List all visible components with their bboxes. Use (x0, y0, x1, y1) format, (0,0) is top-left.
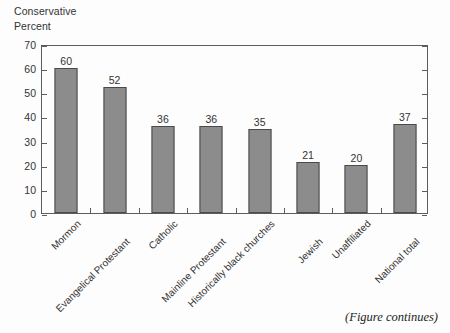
y-axis-tick-left (42, 167, 47, 168)
bar: 36 (200, 126, 223, 213)
x-axis-tick (284, 208, 285, 213)
bar: 21 (297, 162, 320, 213)
bar: 37 (393, 124, 416, 213)
y-axis-tick-left (42, 46, 47, 47)
x-axis-tick (236, 208, 237, 213)
x-axis-category-label: National total (373, 236, 422, 285)
y-axis-tick-label: 30 (10, 136, 36, 148)
figure-continues-note: (Figure continues) (345, 310, 438, 325)
x-axis-category-label: Unaffiliated (330, 218, 373, 261)
chart-axis-unit-label: Percent (14, 19, 76, 34)
y-axis-tick-label: 70 (10, 39, 36, 51)
y-axis-tick-right (422, 143, 427, 144)
y-axis-tick-label: 0 (10, 208, 36, 220)
plot-area: 6052363635212037 (41, 45, 428, 214)
y-axis-tick-left (42, 94, 47, 95)
y-axis-tick-label: 40 (10, 111, 36, 123)
y-axis-tick-right (422, 167, 427, 168)
y-axis-tick-right (422, 191, 427, 192)
y-axis-tick-left (42, 118, 47, 119)
x-axis-category-label: Jewish (295, 236, 324, 265)
bar-value-label: 36 (157, 113, 169, 125)
y-axis-tick-left (42, 70, 47, 71)
x-axis-tick (90, 208, 91, 213)
x-axis-tick (139, 208, 140, 213)
bar-value-label: 36 (205, 113, 217, 125)
bar-value-label: 37 (399, 111, 411, 123)
y-axis-tick-left (42, 143, 47, 144)
y-axis-tick-left (42, 191, 47, 192)
y-axis-tick-label: 10 (10, 184, 36, 196)
bar-value-label: 21 (302, 149, 314, 161)
y-axis-tick-label: 50 (10, 87, 36, 99)
y-axis-tick-label: 60 (10, 63, 36, 75)
bar: 36 (151, 126, 174, 213)
x-axis-category-label: Mormon (49, 218, 83, 252)
x-axis-tick (381, 208, 382, 213)
y-axis-tick-right (422, 70, 427, 71)
y-axis-tick-right (422, 46, 427, 47)
bar-value-label: 35 (254, 116, 266, 128)
y-axis-tick-right (422, 118, 427, 119)
y-axis-tick-label: 20 (10, 160, 36, 172)
y-axis-tick-right (422, 94, 427, 95)
x-axis-category-label: Catholic (146, 218, 179, 251)
y-axis-tick-right (422, 215, 427, 216)
chart-title: Conservative (14, 4, 76, 19)
bar-value-label: 20 (351, 152, 363, 164)
chart-header: Conservative Percent (14, 4, 76, 34)
bar: 20 (345, 165, 368, 213)
bar: 35 (248, 129, 271, 214)
y-axis-tick-left (42, 215, 47, 216)
x-axis-tick (187, 208, 188, 213)
x-axis-category-label: Evangelical Protestant (53, 236, 131, 314)
bar: 60 (55, 68, 78, 213)
x-axis-tick (332, 208, 333, 213)
bar-value-label: 52 (109, 74, 121, 86)
bar-value-label: 60 (60, 55, 72, 67)
bar: 52 (103, 87, 126, 213)
figure-container: Conservative Percent 6052363635212037 01… (0, 0, 450, 333)
